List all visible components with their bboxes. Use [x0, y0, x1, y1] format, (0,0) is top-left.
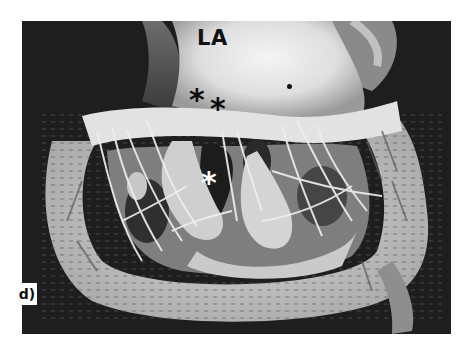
asterisk-marker-white: * [201, 168, 217, 198]
dot-marker [287, 84, 292, 89]
cavity-right [297, 166, 347, 226]
panel-label: d) [17, 283, 37, 305]
heart-specimen-photo [22, 21, 451, 334]
left-atrium-label: LA [197, 26, 228, 50]
specimen-illustration [22, 21, 451, 334]
asterisk-marker-black: * [210, 94, 226, 124]
asterisk-marker-black: * [189, 85, 205, 115]
